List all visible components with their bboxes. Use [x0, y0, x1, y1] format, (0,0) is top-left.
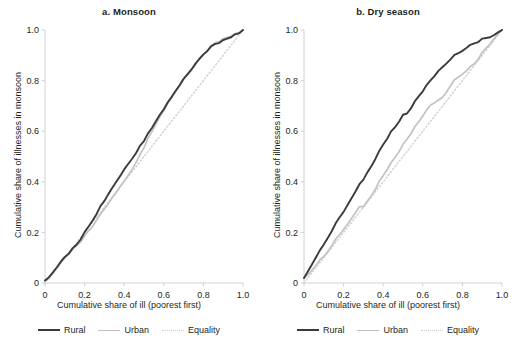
legend-swatch-urban-icon	[357, 330, 379, 331]
legend-entry-equality: Equality	[421, 325, 479, 335]
legend-a: Rural Urban Equality	[0, 325, 258, 335]
legend-label-rural: Rural	[64, 325, 86, 335]
x-axis-label-a: Cumulative share of ill (poorest first)	[0, 300, 258, 310]
svg-text:1.0: 1.0	[496, 290, 509, 300]
legend-label-equality: Equality	[188, 325, 220, 335]
svg-text:0: 0	[42, 290, 47, 300]
svg-text:0: 0	[293, 278, 298, 288]
svg-text:1.0: 1.0	[26, 25, 39, 35]
svg-text:1.0: 1.0	[285, 25, 298, 35]
svg-text:0.6: 0.6	[285, 126, 298, 136]
legend-label-urban: Urban	[383, 325, 408, 335]
legend-swatch-urban-icon	[98, 330, 120, 331]
svg-text:0: 0	[301, 290, 306, 300]
svg-text:0.6: 0.6	[158, 290, 171, 300]
legend-label-equality: Equality	[447, 325, 479, 335]
svg-text:0.2: 0.2	[285, 228, 298, 238]
panel-dry-season: b. Dry season Cumulative share of illnes…	[259, 0, 517, 345]
svg-text:0.2: 0.2	[78, 290, 91, 300]
legend-label-urban: Urban	[124, 325, 149, 335]
legend-swatch-equality-icon	[421, 330, 443, 331]
legend-entry-urban: Urban	[98, 325, 149, 335]
svg-text:0.8: 0.8	[456, 290, 469, 300]
svg-text:0.8: 0.8	[197, 290, 210, 300]
legend-swatch-rural-icon	[38, 329, 60, 331]
svg-text:0.4: 0.4	[377, 290, 390, 300]
legend-entry-rural: Rural	[297, 325, 345, 335]
svg-text:0.2: 0.2	[337, 290, 350, 300]
legend-entry-rural: Rural	[38, 325, 86, 335]
legend-label-rural: Rural	[323, 325, 345, 335]
svg-text:0: 0	[34, 278, 39, 288]
plot-area-b: 00.20.40.60.81.000.20.40.60.81.0	[259, 0, 517, 345]
svg-text:1.0: 1.0	[237, 290, 250, 300]
svg-text:0.6: 0.6	[417, 290, 430, 300]
svg-text:0.8: 0.8	[285, 76, 298, 86]
svg-text:0.2: 0.2	[26, 228, 39, 238]
lorenz-curve-figure: a. Monsoon Cumulative share of illnesses…	[0, 0, 517, 345]
svg-text:0.6: 0.6	[26, 126, 39, 136]
panel-monsoon: a. Monsoon Cumulative share of illnesses…	[0, 0, 258, 345]
legend-swatch-equality-icon	[162, 330, 184, 331]
svg-text:0.4: 0.4	[118, 290, 131, 300]
legend-swatch-rural-icon	[297, 329, 319, 331]
svg-text:0.8: 0.8	[26, 76, 39, 86]
legend-entry-equality: Equality	[162, 325, 220, 335]
svg-text:0.4: 0.4	[26, 177, 39, 187]
legend-b: Rural Urban Equality	[259, 325, 517, 335]
legend-entry-urban: Urban	[357, 325, 408, 335]
x-axis-label-b: Cumulative share of ill (poorest first)	[259, 300, 517, 310]
plot-area-a: 00.20.40.60.81.000.20.40.60.81.0	[0, 0, 258, 345]
svg-text:0.4: 0.4	[285, 177, 298, 187]
